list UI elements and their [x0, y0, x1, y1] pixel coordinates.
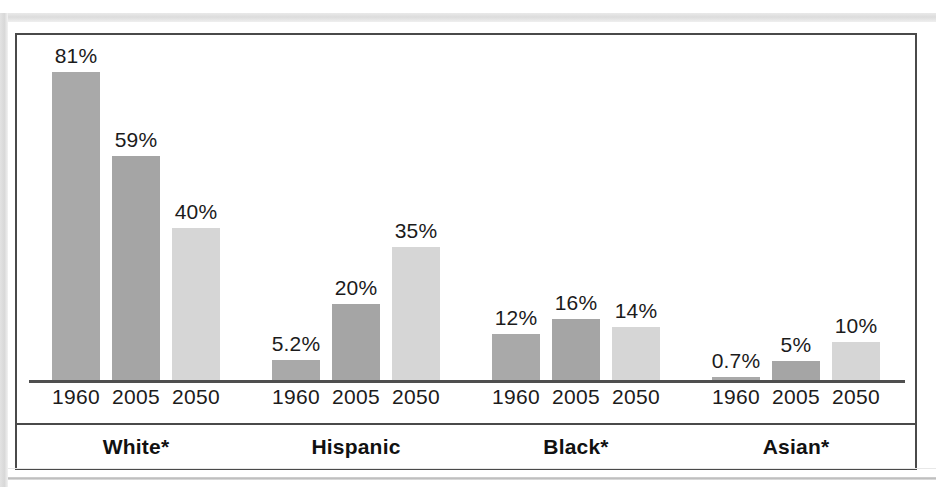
bar-value-label: 5.2% — [272, 332, 321, 356]
year-label-2050: 2050 — [387, 385, 445, 409]
bar-rect — [272, 360, 320, 380]
year-label-1960: 1960 — [487, 385, 545, 409]
scan-rule-faint — [8, 468, 936, 469]
year-label-1960: 1960 — [267, 385, 325, 409]
bar-value-label: 5% — [781, 333, 812, 357]
bar-value-label: 20% — [335, 276, 378, 300]
bar-value-label: 35% — [395, 219, 438, 243]
year-label-2005: 2005 — [327, 385, 385, 409]
group-label-hispanic: Hispanic — [272, 435, 440, 459]
scan-edge-artifact-top — [8, 13, 936, 22]
bar-rect — [552, 319, 600, 380]
bar-value-label: 40% — [175, 200, 218, 224]
bar-rect — [612, 327, 660, 380]
x-axis-line — [29, 380, 905, 383]
group-label-black: Black* — [492, 435, 660, 459]
scan-edge-artifact-left — [0, 13, 8, 487]
bar-value-label: 16% — [555, 291, 598, 315]
bar-value-label: 0.7% — [712, 349, 761, 373]
bar-value-label: 81% — [55, 44, 98, 68]
bar-rect — [492, 334, 540, 380]
x-axis-group-labels: White*HispanicBlack*Asian* — [17, 423, 915, 470]
group-label-asian: Asian* — [712, 435, 880, 459]
bar-value-label: 12% — [495, 306, 538, 330]
year-label-2050: 2050 — [167, 385, 225, 409]
bar-value-label: 10% — [835, 314, 878, 338]
year-label-1960: 1960 — [707, 385, 765, 409]
bar-rect — [172, 228, 220, 380]
bar-rect — [112, 156, 160, 380]
bar-rect — [332, 304, 380, 380]
bar-rect — [832, 342, 880, 380]
bar-value-label: 59% — [115, 128, 158, 152]
year-label-2050: 2050 — [827, 385, 885, 409]
plot-area: 81%59%40%5.2%20%35%12%16%14%0.7%5%10% — [17, 35, 915, 383]
year-label-1960: 1960 — [47, 385, 105, 409]
bar-rect — [392, 247, 440, 380]
bar-rect — [772, 361, 820, 380]
year-label-2005: 2005 — [767, 385, 825, 409]
year-label-2005: 2005 — [107, 385, 165, 409]
x-axis-tick-labels: 1960200520501960200520501960200520501960… — [17, 385, 915, 421]
bar-value-label: 14% — [615, 299, 658, 323]
year-label-2005: 2005 — [547, 385, 605, 409]
year-label-2050: 2050 — [607, 385, 665, 409]
scan-rule-bottom — [8, 477, 936, 480]
bar-rect — [52, 72, 100, 380]
group-label-white: White* — [52, 435, 220, 459]
bar-chart: 81%59%40%5.2%20%35%12%16%14%0.7%5%10% 19… — [15, 33, 917, 470]
